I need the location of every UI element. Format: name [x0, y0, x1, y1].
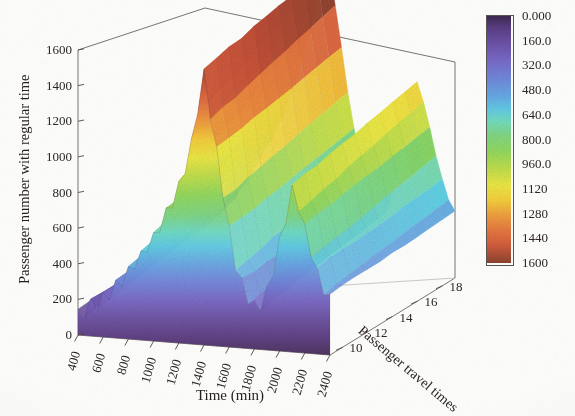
colorbar-tick-label: 160.0 [522, 34, 551, 47]
z-tick-label: 200 [14, 292, 72, 305]
colorbar-tick-label: 0.000 [522, 9, 551, 22]
colorbar-tick-label: 960.0 [522, 157, 551, 170]
z-axis-label: Passenger number with regular time [17, 69, 32, 289]
z-tick-label: 0 [14, 328, 72, 341]
colorbar-gradient [486, 15, 514, 266]
colorbar-tick-label: 1280 [522, 207, 548, 220]
colorbar-tick-label: 800.0 [522, 133, 551, 146]
surface-chart-figure: 02004006008001000120014001600 Passenger … [0, 0, 575, 416]
y-tick-label: 16 [425, 295, 438, 308]
y-tick-label: 18 [450, 280, 463, 293]
colorbar-tick-label: 1120 [522, 182, 548, 195]
colorbar: 0.000160.0320.0480.0640.0800.0960.011201… [486, 15, 514, 266]
colorbar-tick-label: 1600 [522, 256, 548, 269]
y-tick-label: 14 [400, 311, 413, 324]
surface-mesh [78, 0, 455, 355]
colorbar-tick-label: 320.0 [522, 58, 551, 71]
colorbar-tick-label: 480.0 [522, 83, 551, 96]
z-tick-label: 1600 [14, 43, 72, 56]
y-tick-label: 10 [350, 341, 363, 354]
colorbar-tick-label: 640.0 [522, 108, 551, 121]
colorbar-tick-label: 1440 [522, 231, 548, 244]
x-axis-label: Time (min) [150, 388, 310, 403]
